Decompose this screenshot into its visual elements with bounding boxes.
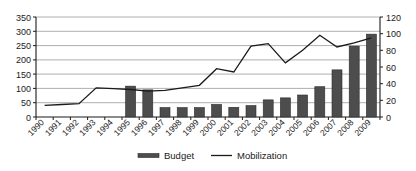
right-tick-80: 80 <box>386 46 396 56</box>
left-tick-50: 50 <box>21 98 31 108</box>
bar-1995 <box>126 86 136 117</box>
x-label-2002: 2002 <box>232 117 253 138</box>
bar-1999 <box>194 108 204 117</box>
x-label-1996: 1996 <box>129 117 150 138</box>
left-tick-250: 250 <box>16 41 31 51</box>
x-label-1999: 1999 <box>180 117 201 138</box>
legend-label-mobilization: Mobilization <box>237 150 287 161</box>
chart-legend: Budget Mobilization <box>138 150 287 161</box>
left-tick-300: 300 <box>16 27 31 37</box>
x-label-2003: 2003 <box>249 117 270 138</box>
bar-2002 <box>246 106 256 117</box>
x-label-1994: 1994 <box>94 117 115 138</box>
legend-swatch-budget <box>138 154 159 158</box>
bar-1997 <box>160 108 170 117</box>
bar-2008 <box>349 46 359 117</box>
x-label-1995: 1995 <box>112 117 133 138</box>
plot-background <box>36 17 380 117</box>
right-tick-20: 20 <box>386 96 396 106</box>
x-label-1997: 1997 <box>146 117 167 138</box>
x-label-2006: 2006 <box>301 117 322 138</box>
bar-2001 <box>229 107 239 117</box>
x-label-2000: 2000 <box>198 117 219 138</box>
x-label-2004: 2004 <box>266 117 287 138</box>
x-label-2008: 2008 <box>335 117 356 138</box>
x-label-1992: 1992 <box>60 117 81 138</box>
right-axis-tick-labels: 120 100 80 60 40 20 0 <box>386 13 401 123</box>
bar-2006 <box>315 87 325 117</box>
left-tick-200: 200 <box>16 55 31 65</box>
x-label-1998: 1998 <box>163 117 184 138</box>
left-tick-100: 100 <box>16 84 31 94</box>
bar-2004 <box>280 98 290 117</box>
left-axis-tick-labels: 350 300 250 200 150 100 50 0 <box>16 13 31 123</box>
bar-2009 <box>366 34 376 117</box>
bar-1996 <box>143 90 153 117</box>
right-tick-60: 60 <box>386 63 396 73</box>
x-label-2009: 2009 <box>352 117 373 138</box>
right-tick-0: 0 <box>386 113 391 123</box>
x-label-1991: 1991 <box>43 117 64 138</box>
chart-canvas: 350 300 250 200 150 100 50 0 120 100 80 … <box>0 0 416 171</box>
left-tick-150: 150 <box>16 70 31 80</box>
bar-2007 <box>332 70 342 117</box>
right-tick-100: 100 <box>386 29 401 39</box>
legend-label-budget: Budget <box>164 150 194 161</box>
chart-figure: 350 300 250 200 150 100 50 0 120 100 80 … <box>0 0 416 171</box>
bar-2005 <box>298 95 308 117</box>
x-label-2005: 2005 <box>284 117 305 138</box>
left-tick-350: 350 <box>16 13 31 23</box>
left-tick-0: 0 <box>26 113 31 123</box>
x-label-1993: 1993 <box>77 117 98 138</box>
right-tick-120: 120 <box>386 13 401 23</box>
bar-2000 <box>212 104 222 117</box>
x-axis-tick-labels: 1990199119921993199419951996199719981999… <box>26 117 373 138</box>
x-label-2001: 2001 <box>215 117 236 138</box>
bar-2003 <box>263 100 273 117</box>
right-tick-40: 40 <box>386 79 396 89</box>
bar-1998 <box>177 108 187 117</box>
x-label-2007: 2007 <box>318 117 339 138</box>
